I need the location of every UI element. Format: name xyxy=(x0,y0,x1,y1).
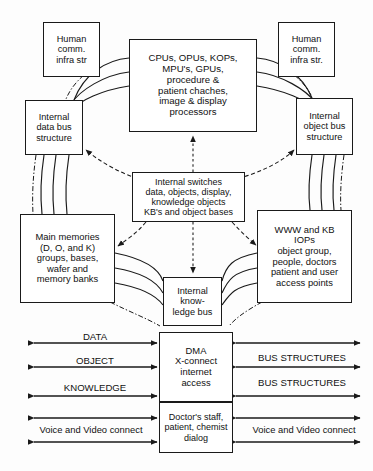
label-bus-structures-upper: BUS STRUCTURES xyxy=(238,352,366,363)
label-data-bus-io: DATA xyxy=(36,331,154,342)
system-architecture-diagram: Human comm. infra str Human comm. infra … xyxy=(0,0,373,471)
box-www-kb-iops[interactable]: WWW and KB IOPs object group, people, do… xyxy=(257,210,352,303)
box-processor-core[interactable]: CPUs, OPUs, KOPs, MPU's, GPUs, procedure… xyxy=(129,39,257,132)
label-object-bus-io: OBJECT xyxy=(36,355,154,366)
box-main-memories[interactable]: Main memories (D, O, and K) groups, base… xyxy=(20,214,115,303)
label-bus-structures-lower: BUS STRUCTURES xyxy=(238,377,366,388)
box-dma-x-connect[interactable]: DMA X-connect internet access xyxy=(159,332,233,402)
label-voice-video-left: Voice and Video connect xyxy=(24,424,158,435)
label-knowledge-bus-io: KNOWLEDGE xyxy=(36,382,154,393)
box-internal-object-bus[interactable]: Internal object bus structure xyxy=(296,98,353,155)
box-internal-knowledge-bus[interactable]: Internal know- ledge bus xyxy=(163,277,222,326)
box-doctor-patient-dialog[interactable]: Doctor's staff, patient, chemist dialog xyxy=(159,402,233,453)
box-internal-data-bus[interactable]: Internal data bus structure xyxy=(25,100,83,155)
box-human-comm-infra-right[interactable]: Human comm. infra str. xyxy=(278,22,335,77)
label-voice-video-right: Voice and Video connect xyxy=(236,424,372,435)
box-internal-switches[interactable]: Internal switches data, objects, display… xyxy=(132,172,245,222)
box-human-comm-infra-left[interactable]: Human comm. infra str xyxy=(43,22,100,77)
